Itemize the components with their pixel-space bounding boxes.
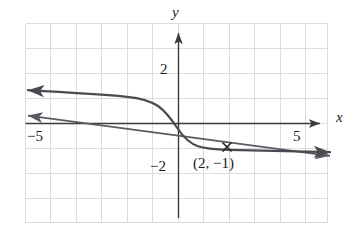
x-tick-negative-5: −5 [27,129,43,144]
graph-figure: y x 2 −2 −5 5 (2, −1) [0,0,355,233]
y-axis-label: y [172,5,179,20]
y-tick-negative-2: −2 [150,159,166,174]
intersection-point-label: (2, −1) [193,156,234,171]
y-tick-positive-2: 2 [160,62,168,77]
coordinate-plot [0,0,355,233]
x-tick-positive-5: 5 [293,129,301,144]
x-axis-label: x [336,110,343,125]
